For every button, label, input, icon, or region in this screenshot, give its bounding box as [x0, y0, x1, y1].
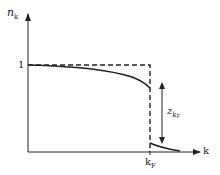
arrow-up-icon: [159, 82, 165, 89]
momentum-distribution-diagram: nk 1 k kF zkF: [0, 0, 220, 175]
arrow-down-icon: [159, 137, 165, 144]
distribution-curve-above-kf: [150, 143, 180, 151]
distribution-curve-below-kf: [28, 65, 150, 88]
kf-label: kF: [145, 157, 156, 170]
y-tick-label-one: 1: [18, 60, 24, 70]
step-function-dashed: [28, 65, 150, 152]
residue-label: zkF: [167, 106, 180, 119]
x-axis-label: k: [203, 146, 209, 156]
diagram-canvas: [0, 0, 220, 175]
y-axis-label: nk: [7, 7, 18, 21]
